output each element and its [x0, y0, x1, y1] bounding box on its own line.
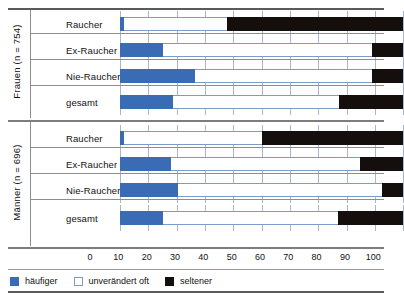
bar-segment-unveraendert-oft	[124, 131, 261, 145]
stacked-bar	[120, 95, 403, 109]
row-plot-area	[120, 89, 403, 115]
legend-label: unverändert oft	[89, 276, 150, 286]
x-axis: 0102030405060708090100	[90, 252, 373, 266]
x-axis-tick-label: 50	[227, 252, 237, 262]
bar-segment-seltener	[382, 183, 404, 197]
stacked-bar	[120, 157, 403, 171]
bar-segment-haeufiger	[120, 17, 124, 31]
bar-segment-seltener	[262, 131, 404, 145]
bar-segment-seltener	[339, 95, 403, 109]
bar-segment-haeufiger	[120, 183, 178, 197]
bar-segment-seltener	[372, 43, 404, 57]
x-axis-tick-label: 80	[312, 252, 322, 262]
x-axis-tick-label: 0	[87, 252, 92, 262]
legend-label: häufiger	[25, 276, 58, 286]
bar-segment-unveraendert-oft	[124, 17, 227, 31]
group-divider-rule	[8, 120, 384, 122]
bar-segment-unveraendert-oft	[171, 157, 360, 171]
row-label: Nie-Raucher	[66, 185, 120, 196]
bar-segment-unveraendert-oft	[163, 211, 338, 225]
axis-rule	[8, 247, 384, 249]
top-rule	[8, 8, 384, 10]
row-label: Raucher	[66, 133, 103, 144]
stacked-bar	[120, 69, 403, 83]
chart-legend: häufigerunverändert oftseltener	[10, 274, 228, 288]
bar-segment-haeufiger	[120, 95, 173, 109]
row-plot-area	[120, 205, 403, 231]
x-axis-tick-label: 100	[366, 252, 381, 262]
row-label: gesamt	[66, 97, 98, 108]
bar-segment-unveraendert-oft	[195, 69, 371, 83]
row-label: Nie-Raucher	[66, 71, 120, 82]
blue-swatch-icon	[10, 277, 19, 286]
group-label-maenner: Männer (n = 696)	[11, 123, 22, 243]
chart-row: gesamt	[30, 89, 384, 115]
stacked-bar	[120, 211, 403, 225]
group-label-frauen: Frauen (n = 754)	[11, 2, 22, 122]
legend-top-rule	[8, 269, 384, 270]
stacked-bar	[120, 183, 403, 197]
row-label: Ex-Raucher	[66, 159, 117, 170]
row-separator	[30, 147, 384, 148]
bar-segment-haeufiger	[120, 43, 163, 57]
bar-segment-haeufiger	[120, 69, 195, 83]
row-separator	[30, 199, 384, 200]
x-axis-tick-label: 40	[198, 252, 208, 262]
stacked-bar	[120, 43, 403, 57]
white-swatch-icon	[74, 277, 83, 286]
bar-segment-unveraendert-oft	[163, 43, 371, 57]
x-axis-tick-label: 10	[113, 252, 123, 262]
row-label: Raucher	[66, 19, 103, 30]
bar-segment-seltener	[227, 17, 403, 31]
x-axis-tick-label: 60	[255, 252, 265, 262]
row-label: gesamt	[66, 213, 98, 224]
row-label: Ex-Raucher	[66, 45, 117, 56]
legend-item[interactable]: häufiger	[10, 276, 58, 286]
x-axis-tick-label: 30	[170, 252, 180, 262]
black-swatch-icon	[165, 277, 174, 286]
bar-segment-haeufiger	[120, 211, 163, 225]
legend-item[interactable]: unverändert oft	[74, 276, 150, 286]
bar-segment-haeufiger	[120, 157, 171, 171]
stacked-bar	[120, 131, 403, 145]
bar-segment-seltener	[338, 211, 403, 225]
x-axis-tick-label: 20	[142, 252, 152, 262]
chart-row: gesamt	[30, 205, 384, 231]
bar-segment-seltener	[360, 157, 403, 171]
bar-segment-haeufiger	[120, 131, 124, 145]
legend-item[interactable]: seltener	[165, 276, 212, 286]
bar-segment-unveraendert-oft	[173, 95, 339, 109]
bar-segment-seltener	[372, 69, 404, 83]
x-axis-tick-label: 70	[283, 252, 293, 262]
legend-bottom-rule	[8, 291, 384, 293]
bar-segment-unveraendert-oft	[178, 183, 381, 197]
stacked-bar	[120, 17, 403, 31]
row-separator	[30, 33, 384, 34]
x-axis-tick-label: 90	[340, 252, 350, 262]
row-separator	[30, 173, 384, 174]
row-separator	[30, 59, 384, 60]
legend-label: seltener	[180, 276, 212, 286]
row-separator	[30, 85, 384, 86]
